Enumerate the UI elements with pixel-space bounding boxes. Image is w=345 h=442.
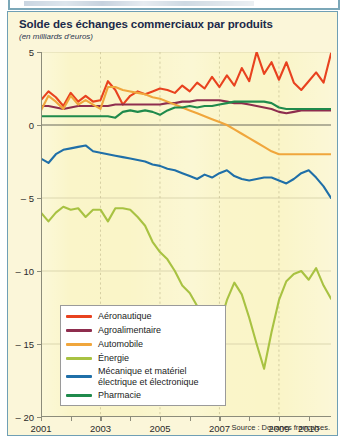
legend-item-label: Pharmacie <box>98 390 141 401</box>
legend-item-label: Agroalimentaire <box>98 325 161 336</box>
legend-item-label: Automobile <box>98 339 143 350</box>
y-tick-mark <box>37 125 41 126</box>
series-line <box>41 52 331 106</box>
legend-item[interactable]: Agroalimentaire <box>66 324 219 336</box>
y-tick-label: – 20 <box>16 412 35 423</box>
plot-wrapper: 50– 5– 10– 15– 20 2001200320052007200920… <box>41 52 331 417</box>
cropped-header-text <box>24 1 254 6</box>
y-tick-mark <box>37 198 41 199</box>
y-tick-mark <box>37 344 41 345</box>
legend-item[interactable]: Automobile <box>66 338 219 350</box>
cropped-page-header <box>0 0 345 10</box>
legend-color-swatch <box>66 394 92 397</box>
y-tick-mark <box>37 271 41 272</box>
x-tick-label: 2005 <box>149 423 170 434</box>
source-note: Source : Douanes françaises. <box>232 423 330 432</box>
legend-color-swatch <box>66 329 92 332</box>
legend-item-label: Aéronautique <box>98 311 152 322</box>
legend-item[interactable]: Énergie <box>66 352 219 364</box>
y-tick-label: – 10 <box>16 266 35 277</box>
y-tick-label: – 5 <box>21 193 34 204</box>
legend-item[interactable]: Aéronautique <box>66 310 219 322</box>
x-tick-label: 2003 <box>90 423 111 434</box>
x-tick-mark <box>160 417 161 421</box>
y-tick-label: 0 <box>29 120 34 131</box>
x-axis-line <box>41 416 331 417</box>
legend-color-swatch <box>66 375 92 378</box>
legend-item[interactable]: Pharmacie <box>66 389 219 401</box>
legend-color-swatch <box>66 315 92 318</box>
x-tick-mark <box>279 417 280 421</box>
x-tick-mark <box>130 417 131 421</box>
x-tick-label: 2007 <box>209 423 230 434</box>
legend-color-swatch <box>66 357 92 360</box>
figure-card: Solde des échanges commerciaux par produ… <box>7 11 338 436</box>
legend-item-label: Mécanique et matériel électrique et élec… <box>98 366 199 387</box>
x-tick-mark <box>190 417 191 421</box>
y-tick-label: – 15 <box>16 339 35 350</box>
y-tick-mark <box>37 52 41 53</box>
cropped-frame-bottom-rule <box>10 8 340 10</box>
x-tick-label: 2001 <box>30 423 51 434</box>
x-tick-mark <box>71 417 72 421</box>
x-tick-mark <box>219 417 220 421</box>
x-tick-mark <box>249 417 250 421</box>
legend-color-swatch <box>66 343 92 346</box>
y-tick-label: 5 <box>29 47 34 58</box>
chart-title: Solde des échanges commerciaux par produ… <box>19 18 273 30</box>
legend-item[interactable]: Mécanique et matériel électrique et élec… <box>66 366 219 387</box>
chart-subtitle: (en milliards d'euros) <box>19 32 93 41</box>
legend-item-label: Énergie <box>98 353 129 364</box>
x-tick-mark <box>309 417 310 421</box>
x-tick-mark <box>100 417 101 421</box>
y-axis-line <box>41 52 42 417</box>
chart-legend: AéronautiqueAgroalimentaireAutomobileÉne… <box>60 305 226 406</box>
x-tick-mark <box>41 417 42 421</box>
